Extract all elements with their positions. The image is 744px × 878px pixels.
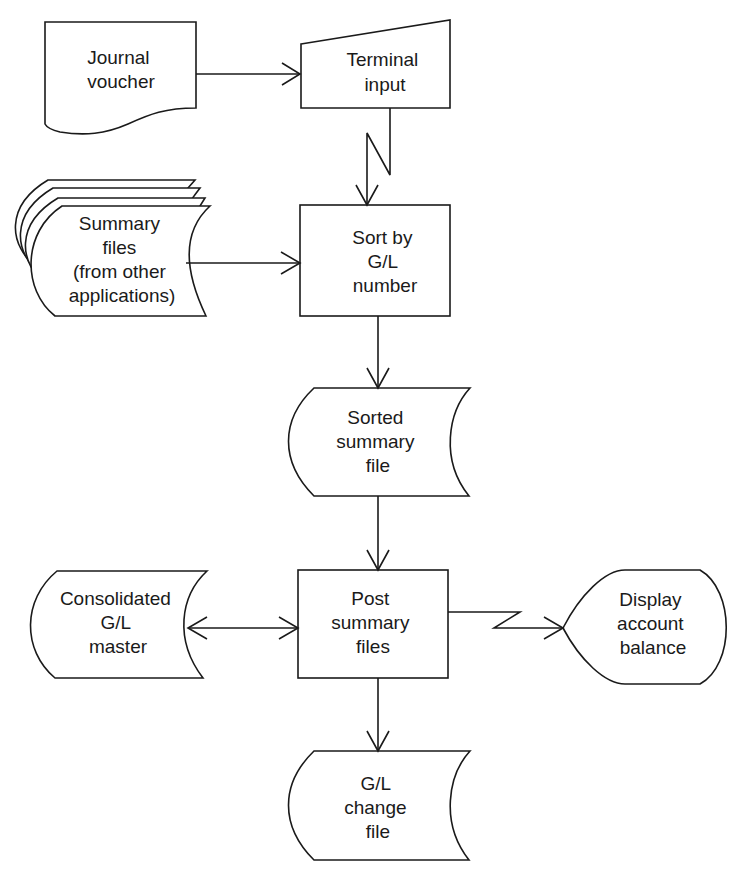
communication-link-line <box>448 612 563 628</box>
node-sort-by-gl: Sort by G/L number <box>300 205 450 316</box>
node-display-account-balance: Display account balance <box>563 570 726 684</box>
edge-voucher-to-terminal <box>196 63 300 85</box>
edge-master-post-bidirectional <box>188 617 298 639</box>
edge-post-to-change-file <box>367 678 389 751</box>
edge-sort-to-sorted-file <box>367 316 389 388</box>
edge-terminal-to-sort <box>356 108 390 205</box>
node-label: Display account balance <box>617 589 689 658</box>
node-terminal-input: Terminal input <box>301 20 450 108</box>
edge-sorted-file-to-post <box>367 496 389 570</box>
node-post-summary-files: Post summary files <box>298 570 448 678</box>
node-journal-voucher: Journal voucher <box>45 22 196 134</box>
node-consolidated-gl-master: Consolidated G/L master <box>30 571 207 678</box>
edge-summary-to-sort <box>186 252 300 274</box>
communication-link-line <box>367 108 390 205</box>
edge-post-to-display <box>448 612 563 639</box>
node-gl-change-file: G/L change file <box>289 751 471 860</box>
node-sorted-summary-file: Sorted summary file <box>289 388 471 496</box>
node-summary-files: Summary files (from other applications) <box>15 180 210 316</box>
flowchart-canvas: Journal voucher Terminal input Summary f… <box>0 0 744 878</box>
